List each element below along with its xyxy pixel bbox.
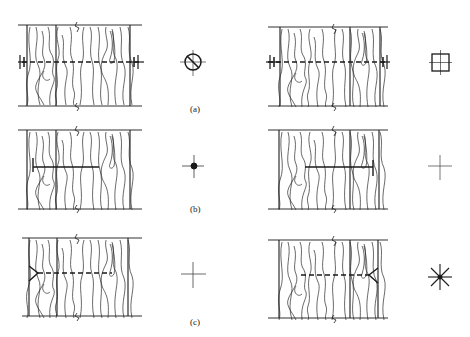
square-cross-icon: [429, 50, 452, 75]
label-c: (c): [190, 317, 200, 327]
plain-cross-icon: [428, 155, 452, 180]
label-b: (b): [190, 204, 201, 214]
plain-cross-icon: [181, 262, 206, 288]
panel-a-left: [18, 22, 144, 111]
panel-a-right: [266, 24, 390, 111]
panel-b-right: [268, 126, 388, 213]
label-a: (a): [190, 104, 200, 114]
asterisk-icon: [428, 264, 452, 290]
panel-c-left: [22, 234, 142, 321]
panel-c-right: [268, 236, 388, 323]
panel-b-left: [18, 126, 142, 213]
timber-connection-diagram: (a) (b): [0, 0, 470, 337]
dot-cross-icon: [182, 155, 204, 178]
circle-slash-icon: [180, 50, 206, 76]
